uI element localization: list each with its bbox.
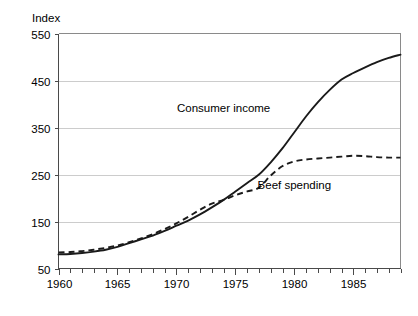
y-tick-label: 450 <box>31 76 50 88</box>
y-tick-label: 150 <box>31 217 50 229</box>
x-tick-label: 1985 <box>341 278 367 290</box>
y-tick-label: 50 <box>38 264 51 276</box>
x-tick-label: 1965 <box>105 278 131 290</box>
chart-container: Index 50150250350450550 1960196519701975… <box>0 0 418 316</box>
y-tick-label: 350 <box>31 123 50 135</box>
x-tick-label: 1975 <box>223 278 249 290</box>
x-tick-label: 1960 <box>47 278 73 290</box>
y-tick-label: 550 <box>31 29 50 41</box>
y-tick-label: 250 <box>31 170 50 182</box>
series-label: Beef spending <box>258 179 332 191</box>
x-tick-label: 1980 <box>282 278 308 290</box>
y-axis-title: Index <box>32 12 60 24</box>
series-label: Consumer income <box>177 102 270 114</box>
line-chart: Index 50150250350450550 1960196519701975… <box>0 0 418 316</box>
x-tick-label: 1970 <box>164 278 190 290</box>
